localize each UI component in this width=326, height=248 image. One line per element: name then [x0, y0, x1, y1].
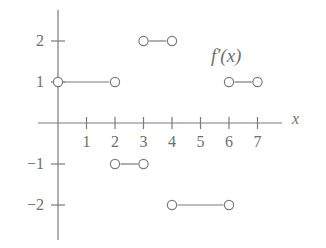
x-tick-label-2: 2 — [111, 134, 119, 150]
y-tick-label-2: 2 — [36, 33, 44, 49]
plot-canvas — [0, 0, 326, 248]
endpoint-open-right-3 — [139, 159, 148, 168]
x-tick-label-1: 1 — [83, 134, 91, 150]
endpoint-open-left-3 — [110, 159, 119, 168]
endpoint-open-left-2 — [224, 77, 233, 86]
x-tick-label-3: 3 — [140, 134, 148, 150]
axes-group — [38, 10, 282, 240]
endpoint-open-left-0 — [53, 77, 62, 86]
endpoint-open-right-4 — [224, 200, 233, 209]
derivative-graph-figure: 123456721−1−2 f′(x) x — [0, 0, 326, 248]
x-tick-label-4: 4 — [168, 134, 176, 150]
endpoint-open-right-1 — [167, 36, 176, 45]
x-tick-label-6: 6 — [225, 134, 233, 150]
x-axis-label: x — [292, 111, 299, 127]
x-tick-label-7: 7 — [254, 134, 262, 150]
endpoint-open-right-0 — [110, 77, 119, 86]
y-tick-label-neg2: −2 — [27, 197, 44, 213]
x-tick-label-5: 5 — [197, 134, 205, 150]
endpoint-open-left-4 — [167, 200, 176, 209]
endpoint-open-left-1 — [139, 36, 148, 45]
y-tick-label-neg1: −1 — [27, 156, 44, 172]
function-label: f′(x) — [211, 46, 242, 65]
endpoint-open-right-2 — [253, 77, 262, 86]
y-tick-label-1: 1 — [36, 74, 44, 90]
